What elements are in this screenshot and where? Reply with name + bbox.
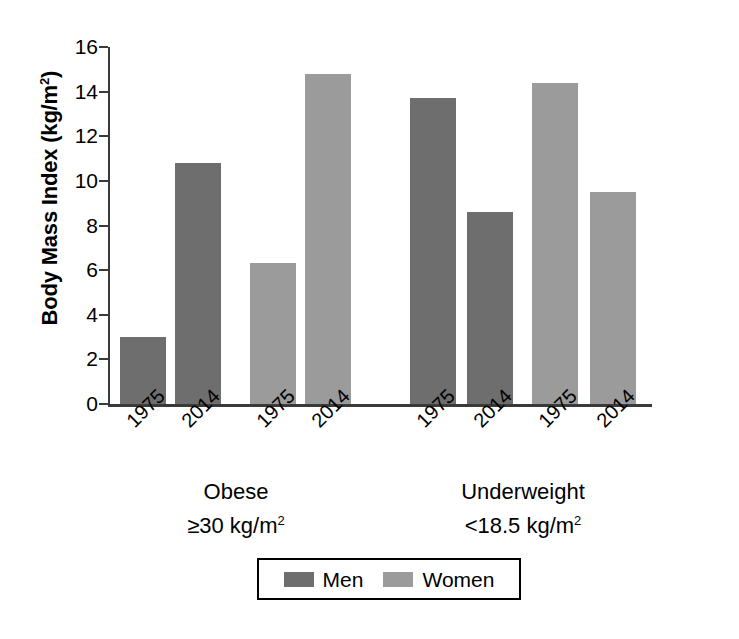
y-axis-tick — [99, 46, 108, 48]
y-axis-tick — [99, 403, 108, 405]
group-label-obese: Obese≥30 kg/m2 — [106, 477, 366, 540]
group-criterion: <18.5 kg/m2 — [393, 506, 653, 540]
y-axis-tick-label: 16 — [12, 36, 98, 57]
y-axis-tick-label: 4 — [12, 304, 98, 325]
y-axis-title: Body Mass Index (kg/m2) — [37, 8, 63, 388]
y-axis-title-tail: ) — [37, 71, 62, 78]
y-axis-tick-label: 10 — [12, 170, 98, 191]
bar-underweight-women-2014 — [590, 192, 636, 404]
group-name: Underweight — [393, 477, 653, 506]
legend-entry-men: Men — [284, 569, 364, 590]
y-axis-line — [108, 47, 110, 404]
y-axis-tick-label: 0 — [12, 393, 98, 414]
bar-underweight-men-2014 — [467, 212, 513, 404]
y-axis-tick — [99, 314, 108, 316]
group-criterion: ≥30 kg/m2 — [106, 506, 366, 540]
legend-swatch-women-icon — [383, 572, 413, 587]
bar-underweight-women-1975 — [532, 83, 578, 404]
legend: Men Women — [257, 558, 521, 600]
bar-obese-women-1975 — [250, 263, 296, 404]
y-axis-tick — [99, 269, 108, 271]
y-axis-tick — [99, 91, 108, 93]
legend-label-women: Women — [422, 569, 494, 590]
group-name: Obese — [106, 477, 366, 506]
plot-area — [108, 47, 652, 404]
legend-label-men: Men — [323, 569, 364, 590]
legend-swatch-men-icon — [284, 572, 314, 587]
bmi-bar-chart: Body Mass Index (kg/m2) 0246810121416 19… — [0, 0, 739, 639]
bar-obese-women-2014 — [305, 74, 351, 404]
y-axis-tick-label: 6 — [12, 259, 98, 280]
y-axis-tick — [99, 225, 108, 227]
legend-entry-women: Women — [383, 569, 494, 590]
y-axis-tick — [99, 135, 108, 137]
y-axis-tick-label: 14 — [12, 81, 98, 102]
group-label-underweight: Underweight<18.5 kg/m2 — [393, 477, 653, 540]
y-axis-tick — [99, 180, 108, 182]
y-axis-tick — [99, 358, 108, 360]
y-axis-tick-label: 12 — [12, 125, 98, 146]
y-axis-tick-label: 8 — [12, 215, 98, 236]
y-axis-title-text: Body Mass Index (kg/m — [37, 85, 62, 325]
bar-underweight-men-1975 — [410, 98, 456, 404]
bar-obese-men-2014 — [175, 163, 221, 404]
y-axis-tick-label: 2 — [12, 348, 98, 369]
